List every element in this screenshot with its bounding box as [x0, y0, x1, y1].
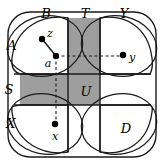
region-label-d-set: D [121, 122, 131, 135]
point-label-x: x [52, 131, 58, 142]
point-y [120, 52, 126, 58]
region-label-y-set: Y [120, 7, 129, 20]
point-label-y: y [129, 52, 135, 63]
region-label-b-set: B [41, 7, 51, 20]
region-label-x-set: X [6, 117, 15, 130]
point-label-a: a [45, 58, 52, 69]
shaded-region-top-strip [68, 18, 100, 74]
region-label-t-set: T [81, 7, 90, 20]
region-label-s-set: S [5, 83, 14, 96]
shaded-region-left-band [20, 74, 68, 105]
point-x [52, 121, 58, 127]
set-diagram-figure: A B T Y S U X D z a y x [0, 0, 164, 165]
region-label-a-set: A [7, 39, 16, 52]
point-z [39, 36, 45, 42]
point-a [53, 53, 59, 59]
connector-z-to-a [42, 39, 56, 56]
point-label-z: z [47, 28, 53, 39]
region-label-u-set: U [81, 85, 92, 98]
diagram-canvas [0, 0, 164, 165]
